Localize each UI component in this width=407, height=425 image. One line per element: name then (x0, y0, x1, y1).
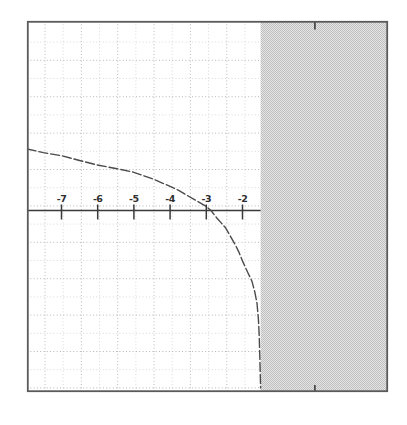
x-tick-label: -3 (202, 193, 212, 204)
x-axis (27, 205, 261, 220)
x-tick-label: -4 (165, 193, 175, 204)
x-tick-label: -6 (93, 193, 103, 204)
shaded-region (261, 22, 387, 391)
x-tick-label: -5 (129, 193, 139, 204)
figure-page: -7-6-5-4-3-2 (0, 0, 407, 425)
x-tick-label: -7 (57, 193, 67, 204)
x-tick-labels: -7-6-5-4-3-2 (57, 193, 248, 204)
x-tick-label: -2 (238, 193, 248, 204)
curve-path (27, 149, 261, 388)
plot-canvas: -7-6-5-4-3-2 (0, 0, 407, 425)
